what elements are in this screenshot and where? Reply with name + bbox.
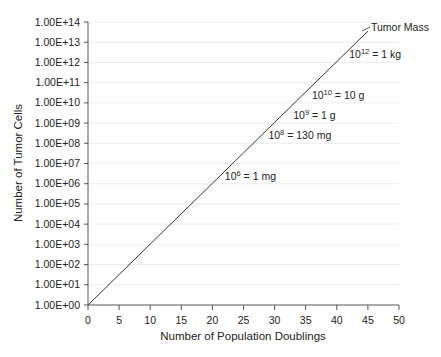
mass-annotation: 108 = 130 mg [268, 128, 331, 141]
x-tick-label: 45 [362, 314, 374, 326]
x-tick-label: 40 [331, 314, 343, 326]
series-label-tumor-mass: Tumor Mass [371, 21, 429, 33]
tumor-growth-chart: 1.00E+001.00E+011.00E+021.00E+031.00E+04… [0, 0, 441, 357]
y-tick-label: 1.00E+03 [35, 238, 80, 250]
y-axis-title: Number of Tumor Cells [12, 104, 24, 222]
y-tick-label: 1.00E+02 [35, 258, 80, 270]
y-axis-ticks: 1.00E+001.00E+011.00E+021.00E+031.00E+04… [35, 16, 88, 311]
series-label-leader [362, 27, 370, 31]
y-tick-label: 1.00E+06 [35, 177, 80, 189]
x-tick-label: 35 [300, 314, 312, 326]
tumor-mass-line [88, 31, 368, 305]
x-tick-label: 20 [207, 314, 219, 326]
x-tick-label: 15 [175, 314, 187, 326]
y-tick-label: 1.00E+01 [35, 278, 80, 290]
x-tick-label: 50 [393, 314, 405, 326]
y-tick-label: 1.00E+14 [35, 16, 80, 28]
mass-annotations: 1012 = 1 kg1010 = 10 g109 = 1 g108 = 130… [225, 47, 401, 181]
x-axis-title: Number of Population Doublings [160, 330, 326, 342]
x-axis-ticks: 05101520253035404550 [85, 305, 405, 326]
x-tick-label: 10 [144, 314, 156, 326]
x-tick-label: 25 [238, 314, 250, 326]
y-tick-label: 1.00E+09 [35, 117, 80, 129]
x-tick-label: 5 [116, 314, 122, 326]
x-tick-label: 0 [85, 314, 91, 326]
mass-annotation: 106 = 1 mg [225, 169, 276, 182]
y-tick-label: 1.00E+07 [35, 157, 80, 169]
mass-annotation: 109 = 1 g [293, 108, 336, 121]
y-tick-label: 1.00E+13 [35, 36, 80, 48]
y-tick-label: 1.00E+12 [35, 56, 80, 68]
y-tick-label: 1.00E+11 [36, 76, 81, 88]
mass-annotation: 1010 = 10 g [312, 88, 365, 101]
y-tick-label: 1.00E+04 [35, 218, 80, 230]
y-tick-label: 1.00E+00 [35, 299, 80, 311]
y-tick-label: 1.00E+10 [35, 96, 80, 108]
mass-annotation: 1012 = 1 kg [349, 47, 401, 60]
y-tick-label: 1.00E+08 [35, 137, 80, 149]
x-tick-label: 30 [269, 314, 281, 326]
y-tick-label: 1.00E+05 [35, 197, 80, 209]
